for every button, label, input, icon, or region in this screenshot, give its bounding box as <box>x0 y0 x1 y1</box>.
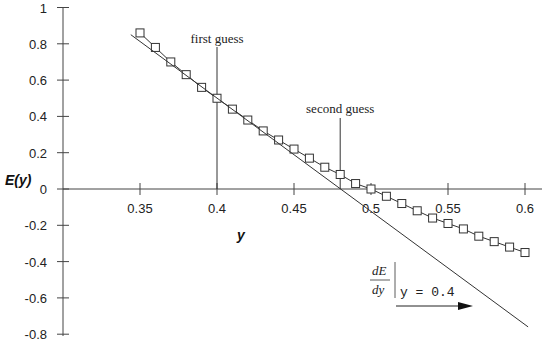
data-point <box>413 207 421 215</box>
data-point <box>398 200 406 208</box>
y-tick-label: 1 <box>40 1 47 16</box>
y-tick-label: 0.6 <box>29 73 47 88</box>
data-point <box>475 232 483 240</box>
first-guess-label: first guess <box>190 31 243 46</box>
chart: 10.80.60.40.20-0.2-0.4-0.6-0.8 0.350.40.… <box>0 0 548 346</box>
y-tick-label: 0.2 <box>29 146 47 161</box>
derivative-denominator: dy <box>372 282 385 297</box>
y-tick-label: -0.4 <box>25 255 47 270</box>
data-point <box>521 249 529 257</box>
data-point <box>382 192 390 200</box>
y-tick-label: -0.6 <box>25 291 47 306</box>
series-group <box>131 29 529 327</box>
data-point <box>136 29 144 37</box>
data-point <box>490 238 498 246</box>
data-point <box>506 243 514 251</box>
y-tick-label: 0.8 <box>29 37 47 52</box>
data-point <box>444 219 452 227</box>
x-tick-label: 0.35 <box>127 201 152 216</box>
tangent-line <box>131 35 528 327</box>
x-ticks: 0.350.40.450.50.550.6 <box>127 183 534 216</box>
data-point <box>290 145 298 153</box>
energy-curve-line <box>140 33 525 253</box>
data-point <box>336 170 344 178</box>
data-point <box>321 163 329 171</box>
x-tick-label: 0.4 <box>208 201 226 216</box>
data-point <box>459 225 467 233</box>
derivative-numerator: dE <box>372 263 387 278</box>
guess-annotations: first guesssecond guess <box>190 31 374 189</box>
y-tick-label: -0.8 <box>25 327 47 342</box>
y-tick-label: 0 <box>40 182 47 197</box>
evaluation-point: y = 0.4 <box>400 285 455 300</box>
data-point <box>429 214 437 222</box>
x-tick-label: 0.6 <box>516 201 534 216</box>
second-guess-label: second guess <box>306 101 374 116</box>
derivative-annotation: dE dy y = 0.4 <box>370 262 473 310</box>
y-tick-label: 0.4 <box>29 109 47 124</box>
arrow-head-icon <box>458 302 473 310</box>
y-tick-label: -0.2 <box>25 218 47 233</box>
data-point <box>367 185 375 193</box>
x-tick-label: 0.5 <box>362 201 380 216</box>
x-tick-label: 0.45 <box>281 201 306 216</box>
data-point <box>352 180 360 188</box>
data-point <box>305 154 313 162</box>
x-axis-title: y <box>236 227 246 243</box>
y-axis-title: E(y) <box>5 172 32 188</box>
x-tick-label: 0.55 <box>435 201 460 216</box>
